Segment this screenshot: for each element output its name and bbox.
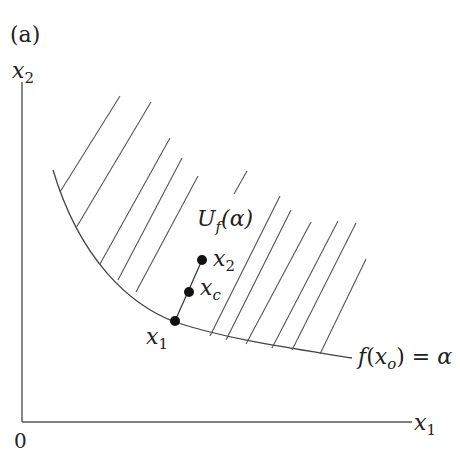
panel-label: (a): [10, 22, 40, 47]
origin-label: 0: [14, 429, 27, 453]
point-xc: [184, 287, 194, 297]
y-axis-label: x2: [12, 58, 34, 87]
point-x2-label: x2: [213, 246, 235, 275]
region-label: Uf(α): [197, 206, 253, 236]
upper-contour-set-diagram: (a) x2 x1 0 Uf(α) x1 xc x2 f(xo) = α: [0, 0, 460, 459]
curve-label: f(xo) = α: [356, 344, 452, 373]
point-x1-label: x1: [146, 324, 168, 353]
point-x1: [170, 316, 180, 326]
x-axis-label: x1: [414, 410, 436, 439]
point-x2: [197, 255, 207, 265]
point-xc-label: xc: [200, 275, 221, 304]
